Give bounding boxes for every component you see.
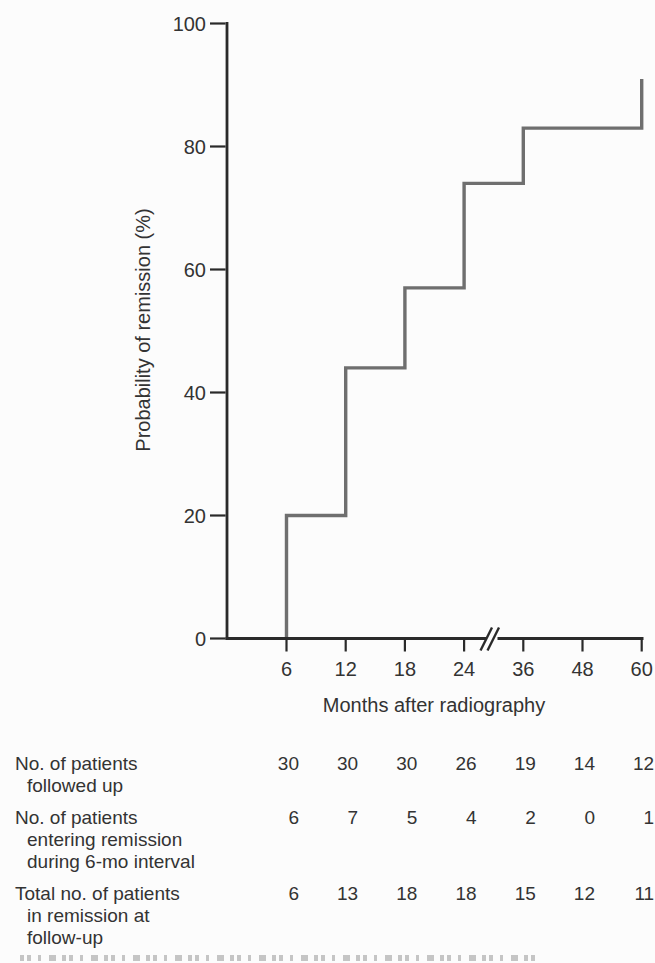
table-cell-value: 13	[312, 883, 358, 905]
table-cell-value: 30	[253, 753, 299, 775]
y-tick-label: 20	[146, 505, 206, 527]
x-tick-label: 18	[380, 658, 430, 680]
table-cell-value: 14	[549, 753, 595, 775]
table-row-label: Total no. of patientsin remission atfoll…	[15, 883, 180, 949]
table-cell-value: 5	[371, 807, 417, 829]
table-row-label-line: in remission at	[27, 905, 180, 927]
table-row-label: No. of patientsentering remissionduring …	[15, 807, 195, 873]
table-cell-value: 19	[490, 753, 536, 775]
x-tick-label: 24	[439, 658, 489, 680]
table-cell-value: 18	[371, 883, 417, 905]
y-tick-label: 60	[146, 259, 206, 281]
table-cell-value: 15	[490, 883, 536, 905]
table-cell-value: 6	[253, 807, 299, 829]
y-axis-title: Probability of remission (%)	[132, 208, 155, 451]
table-row-label: No. of patientsfollowed up	[15, 753, 138, 797]
y-tick-label: 80	[146, 136, 206, 158]
table-row-label-line: follow-up	[27, 927, 180, 949]
table-cell-value: 18	[431, 883, 477, 905]
table-row-label-line: followed up	[27, 775, 138, 797]
table-cell-value: 7	[312, 807, 358, 829]
remission-step-curve	[287, 79, 642, 639]
table-row-label-line: Total no. of patients	[15, 883, 180, 904]
x-tick-label: 60	[617, 658, 655, 680]
table-cell-value: 1	[608, 807, 654, 829]
y-tick-label: 100	[146, 13, 206, 35]
x-tick-label: 36	[498, 658, 548, 680]
remission-figure: Probability of remission (%) Months afte…	[0, 0, 655, 963]
y-tick-label: 0	[146, 628, 206, 650]
remission-step-chart	[0, 0, 655, 760]
table-cell-value: 6	[253, 883, 299, 905]
x-tick-label: 12	[321, 658, 371, 680]
table-cell-value: 26	[431, 753, 477, 775]
table-cell-value: 12	[608, 753, 654, 775]
y-tick-label: 40	[146, 382, 206, 404]
x-tick-label: 6	[262, 658, 312, 680]
x-axis-title: Months after radiography	[323, 694, 545, 717]
table-row-label-line: entering remission	[27, 829, 195, 851]
table-cell-value: 30	[371, 753, 417, 775]
x-tick-label: 48	[558, 658, 608, 680]
table-cell-value: 2	[490, 807, 536, 829]
table-row-label-line: during 6-mo interval	[27, 851, 195, 873]
table-row-label-line: No. of patients	[15, 753, 138, 774]
table-cell-value: 11	[608, 883, 654, 905]
table-cell-value: 30	[312, 753, 358, 775]
table-cell-value: 0	[549, 807, 595, 829]
table-row-label-line: No. of patients	[15, 807, 138, 828]
cropped-caption-fragment	[20, 955, 535, 961]
table-cell-value: 12	[549, 883, 595, 905]
table-cell-value: 4	[431, 807, 477, 829]
